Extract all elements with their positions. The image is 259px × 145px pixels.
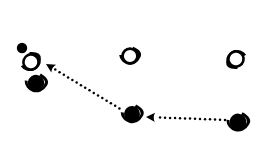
filled-disc-icon <box>17 43 27 53</box>
diagram-background <box>0 0 259 145</box>
eye-motion-diagram <box>0 0 259 145</box>
diagram-canvas-container <box>0 0 259 145</box>
outline-circle-icon <box>123 49 138 64</box>
small-dot <box>17 43 27 53</box>
